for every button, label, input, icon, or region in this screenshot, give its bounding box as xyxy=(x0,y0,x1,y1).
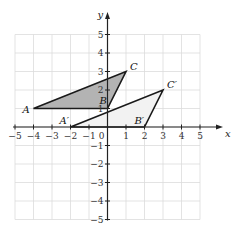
vertex-label: A′ xyxy=(59,115,70,126)
coordinate-plane: −5−4−3−2−11234554321−1−2−3−4−50xyABCA′B′… xyxy=(0,0,231,234)
vertex-label: A xyxy=(22,104,30,115)
vertex-label: C′ xyxy=(167,79,178,90)
origin-label: 0 xyxy=(99,131,105,141)
y-axis-arrow-icon xyxy=(105,12,110,19)
x-axis-label: x xyxy=(225,128,231,139)
y-tick-label: 5 xyxy=(98,30,104,40)
x-tick-label: 2 xyxy=(142,131,148,141)
x-axis-arrow-icon xyxy=(216,125,223,130)
x-tick-label: −2 xyxy=(64,131,77,141)
x-tick-label: 5 xyxy=(197,131,203,141)
y-axis-label: y xyxy=(97,9,104,20)
x-tick-label: 4 xyxy=(179,131,185,141)
y-tick-label: 4 xyxy=(98,48,104,58)
vertex-label: B′ xyxy=(134,115,145,126)
x-tick-label: 1 xyxy=(123,131,129,141)
x-tick-label: −1 xyxy=(82,131,95,141)
vertex-label: C xyxy=(130,61,138,72)
x-tick-label: 3 xyxy=(160,131,166,141)
y-tick-label: −4 xyxy=(90,196,104,206)
y-tick-label: 3 xyxy=(98,67,104,77)
y-tick-label: −1 xyxy=(90,141,103,151)
y-tick-label: −2 xyxy=(90,159,103,169)
x-tick-label: −4 xyxy=(27,131,41,141)
y-tick-label: −3 xyxy=(90,178,104,188)
x-tick-label: −3 xyxy=(45,131,59,141)
vertex-label: B xyxy=(99,95,107,106)
y-tick-label: −5 xyxy=(90,215,104,225)
x-tick-label: −5 xyxy=(8,131,22,141)
